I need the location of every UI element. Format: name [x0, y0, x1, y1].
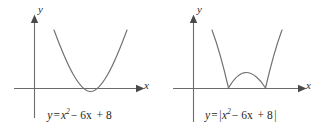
abs-curve-right-branch [266, 30, 283, 88]
abs-curve-reflected-hump [229, 73, 266, 89]
equation-equals-left: = [52, 109, 61, 121]
equation-linear-term-left: − 6x [70, 109, 93, 121]
x-axis-label-left: x [144, 80, 149, 91]
abs-curve-left-branch [212, 30, 229, 88]
figure-container: y x y=x2− 6x + 8 y x y=|x2− 6x + 8| [0, 0, 321, 137]
equation-constant-term-right: + 8 [257, 109, 274, 121]
equation-label-right: y=|x2− 6x + 8| [161, 110, 321, 122]
equation-abs-bar-close-right: | [274, 109, 277, 121]
y-axis-label-right: y [197, 4, 202, 15]
y-axis-label-left: y [38, 4, 43, 15]
y-axis-arrowhead-left [31, 15, 38, 24]
x-axis-label-right: x [306, 80, 311, 91]
plot-panel-left: y x y=x2− 6x + 8 [0, 0, 160, 137]
equation-linear-term-right: − 6x [231, 109, 254, 121]
y-axis-arrowhead-right [190, 15, 197, 24]
parabola-curve-left [54, 30, 127, 92]
equation-label-left: y=x2− 6x + 8 [0, 110, 160, 122]
equation-constant-term-left: + 8 [96, 109, 113, 121]
plot-panel-right: y x y=|x2− 6x + 8| [161, 0, 321, 137]
equation-equals-right: = [210, 109, 219, 121]
